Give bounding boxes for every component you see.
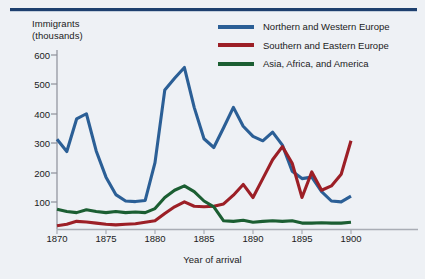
y-axis-tick-marks <box>51 55 57 202</box>
immigration-line-chart-figure: Immigrants (thousands) Northern and West… <box>0 0 425 279</box>
x-axis-title: Year of arrival <box>0 254 425 265</box>
series-line-asia-africa-and-america <box>57 186 351 223</box>
plot-area <box>0 0 425 279</box>
